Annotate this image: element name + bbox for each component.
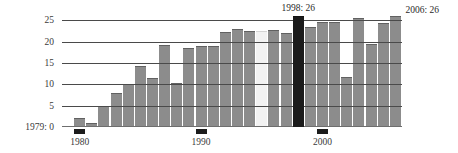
bar-cap: [220, 32, 231, 33]
bar-1989[interactable]: [183, 48, 194, 127]
x-tick-label-1980: 1980: [50, 137, 110, 148]
bar-cap: [256, 31, 267, 32]
bar-1991[interactable]: [208, 46, 219, 127]
bar-cap: [135, 66, 146, 67]
bar-cap: [208, 46, 219, 47]
gridline-15: [62, 63, 402, 64]
bar-cap: [74, 118, 85, 119]
bar-2004[interactable]: [366, 44, 377, 127]
bar-1994[interactable]: [244, 31, 255, 127]
y-tick-15: 15: [20, 58, 54, 68]
bar-1982[interactable]: [98, 106, 109, 127]
x-tick-mark-1990: [196, 129, 207, 134]
bar-cap: [111, 93, 122, 94]
gridline-20: [62, 42, 402, 43]
bar-cap: [147, 78, 158, 79]
bar-2005[interactable]: [378, 23, 389, 127]
y-tick-5: 5: [20, 101, 54, 111]
annotation-peak-1998: 1998: 26: [262, 3, 334, 14]
bar-1997[interactable]: [281, 33, 292, 127]
y-axis-zero-label: 1979: 0: [2, 122, 54, 132]
bar-chart: 252015105 1979: 0 198019902000 1998: 262…: [0, 0, 458, 153]
bar-2006[interactable]: [390, 16, 401, 127]
y-tick-10: 10: [20, 79, 54, 89]
bar-1992[interactable]: [220, 32, 231, 127]
plot-area: [62, 16, 402, 127]
bar-cap: [232, 29, 243, 30]
bar-cap: [366, 44, 377, 45]
x-tick-mark-1980: [74, 129, 85, 134]
gridline-25: [62, 20, 402, 21]
bar-cap: [159, 45, 170, 46]
bar-1995[interactable]: [256, 31, 267, 127]
bar-cap: [341, 77, 352, 78]
bar-1987[interactable]: [159, 45, 170, 127]
bar-1998[interactable]: [293, 16, 304, 127]
bar-cap: [86, 123, 97, 124]
y-tick-25: 25: [20, 15, 54, 25]
bar-cap: [196, 46, 207, 47]
annotation-last-2006: 2006: 26: [405, 5, 439, 16]
bar-cap: [353, 18, 364, 19]
gridline-5: [62, 106, 402, 107]
bar-cap: [305, 27, 316, 28]
bar-cap: [329, 22, 340, 23]
bar-2001[interactable]: [329, 22, 340, 127]
y-tick-20: 20: [20, 37, 54, 47]
x-tick-mark-2000: [317, 129, 328, 134]
bar-1985[interactable]: [135, 66, 146, 127]
bar-cap: [390, 16, 401, 17]
bar-1990[interactable]: [196, 46, 207, 127]
axis-baseline: [62, 126, 402, 127]
gridline-10: [62, 84, 402, 85]
bar-1983[interactable]: [111, 93, 122, 127]
bar-cap: [317, 22, 328, 23]
bar-cap: [244, 31, 255, 32]
bar-cap: [183, 48, 194, 49]
bar-1996[interactable]: [268, 30, 279, 127]
bar-1993[interactable]: [232, 29, 243, 127]
bar-cap: [378, 23, 389, 24]
bar-2003[interactable]: [353, 18, 364, 127]
x-tick-label-2000: 2000: [293, 137, 353, 148]
bar-cap: [281, 33, 292, 34]
x-tick-label-1990: 1990: [171, 137, 231, 148]
bar-2000[interactable]: [317, 22, 328, 127]
bar-cap: [293, 16, 304, 17]
bar-cap: [268, 30, 279, 31]
